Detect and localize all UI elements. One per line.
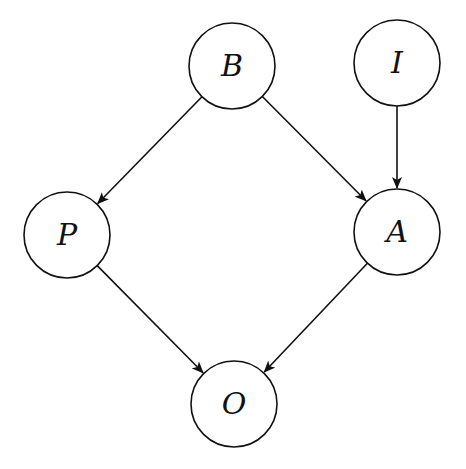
node-i: I (354, 20, 440, 106)
node-label: O (222, 386, 247, 421)
edge-b-to-a (262, 96, 366, 200)
node-p: P (24, 192, 110, 278)
node-a: A (354, 189, 440, 275)
edge-a-to-o (264, 263, 367, 372)
node-label: B (220, 48, 243, 83)
node-label: A (383, 214, 408, 249)
node-label: I (390, 45, 404, 80)
edge-b-to-p (98, 97, 202, 204)
graph-svg: BIPAO (0, 0, 466, 469)
node-label: P (56, 217, 78, 252)
node-b: B (189, 23, 275, 109)
dag-diagram: BIPAO (0, 0, 466, 469)
edge-p-to-o (97, 266, 203, 373)
node-o: O (191, 361, 277, 447)
